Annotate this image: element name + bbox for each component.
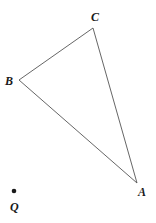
label-c: C [91, 10, 100, 24]
label-q: Q [10, 200, 19, 214]
label-a: A [137, 185, 146, 199]
label-b: B [4, 74, 13, 88]
triangle-abc [19, 28, 137, 183]
point-q-dot [12, 189, 17, 194]
geometry-diagram: C B A Q [0, 0, 156, 223]
